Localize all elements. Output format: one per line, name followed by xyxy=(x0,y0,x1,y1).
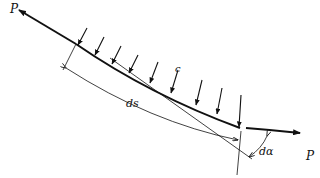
load-arrow-icon xyxy=(95,37,104,55)
ds-extension-right xyxy=(237,131,241,175)
cable-element-diagram: P P c ds dα xyxy=(0,0,320,178)
load-arrow-icon xyxy=(239,95,241,127)
ds-extension-left xyxy=(63,44,76,70)
load-arrow-icon xyxy=(150,62,158,83)
force-right-arrow-icon xyxy=(246,128,300,133)
force-left xyxy=(19,10,76,44)
load-arrow-icon xyxy=(112,46,121,64)
angle-label: dα xyxy=(259,145,274,158)
load-arrow-icon xyxy=(78,28,87,45)
load-arrow-icon xyxy=(196,80,202,105)
cable-curve xyxy=(76,44,240,128)
force-right xyxy=(246,128,300,133)
distributed-load-arrows xyxy=(78,28,241,127)
force-left-arrow-icon xyxy=(19,10,76,44)
load-arrow-icon xyxy=(129,55,138,73)
load-arrow-icon xyxy=(217,88,222,114)
arc-length-label: ds xyxy=(126,97,139,110)
force-left-label: P xyxy=(9,2,19,16)
load-label: c xyxy=(175,63,181,74)
force-right-label: P xyxy=(305,149,315,163)
